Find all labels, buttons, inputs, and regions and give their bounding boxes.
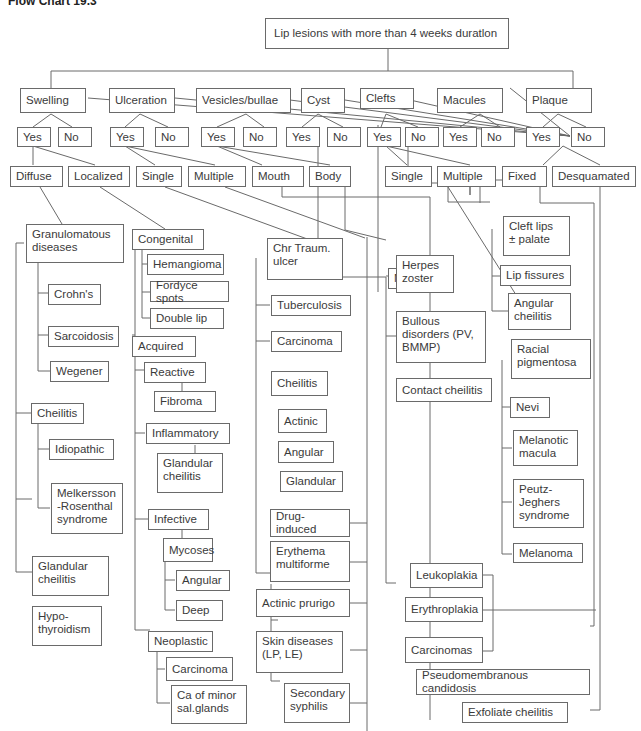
node-actinic: Actinic bbox=[278, 409, 327, 433]
node-hemangioma: Hemangioma bbox=[147, 254, 224, 275]
node-reactive: Reactive bbox=[144, 362, 206, 383]
node-clefts-yes: Yes bbox=[367, 127, 401, 147]
node-tuberculosis: Tuberculosis bbox=[271, 295, 351, 316]
node-macules: Macules bbox=[437, 88, 503, 113]
node-cyst-yes: Yes bbox=[286, 127, 320, 147]
node-swelling: Swelling bbox=[20, 88, 86, 113]
node-pseudomembranous-candidosis: Pseudomembranous candidosis bbox=[416, 669, 590, 695]
node-swelling-no: No bbox=[58, 127, 92, 147]
node-inflammatory: Inflammatory bbox=[146, 423, 230, 444]
node-peutz-jeghers: Peutz- Jeghers syndrome bbox=[513, 479, 584, 528]
node-ca-minor-salivary: Ca of minor sal.glands bbox=[171, 685, 247, 724]
node-cheilitis-ulcer: Cheilitis bbox=[271, 371, 328, 396]
node-hypothyroidism: Hypo- thyroidism bbox=[32, 606, 102, 646]
node-clefts: Clefts bbox=[360, 88, 414, 109]
node-glandular-ulcer: Glandular bbox=[280, 471, 343, 492]
node-carcinomas: Carcinomas bbox=[405, 637, 483, 663]
node-carcinoma-localized: Carcinoma bbox=[166, 657, 233, 681]
node-bullous-disorders: Bullous disorders (PV, BMMP) bbox=[396, 311, 486, 363]
node-carcinoma-ulcer: Carcinoma bbox=[271, 331, 342, 352]
node-multiple-cleft: Multiple bbox=[437, 166, 496, 187]
node-plaque: Plaque bbox=[526, 88, 592, 113]
node-plaque-no: No bbox=[571, 127, 605, 147]
node-fordyce-spots: Fordyce spots bbox=[150, 281, 229, 302]
node-multiple-ulcer: Multiple bbox=[188, 166, 246, 187]
node-fixed: Fixed bbox=[502, 166, 547, 187]
node-mouth: Mouth bbox=[252, 166, 304, 187]
node-exfoliate-cheilitis: Exfoliate cheilitis bbox=[462, 702, 568, 723]
node-granulomatous: Granulomatous diseases bbox=[26, 224, 124, 263]
node-congenital: Congenital bbox=[132, 229, 204, 250]
node-angular-mycoses: Angular bbox=[176, 570, 230, 591]
node-body: Body bbox=[309, 166, 351, 187]
node-melanoma: Melanoma bbox=[513, 543, 583, 563]
node-ulceration: Ulceration bbox=[109, 88, 175, 113]
node-cyst-no: No bbox=[327, 127, 361, 147]
node-herpes-zoster: Herpes zoster bbox=[396, 255, 454, 293]
node-angular-cheilitis-cleft: Angular cheilitis bbox=[508, 293, 571, 330]
node-vesicles-yes: Yes bbox=[201, 127, 235, 147]
node-vesicles-no: No bbox=[243, 127, 277, 147]
node-double-lip: Double lip bbox=[150, 308, 224, 329]
node-glandular-cheilitis-diffuse: Glandular cheilitis bbox=[32, 556, 109, 596]
node-macules-no: No bbox=[481, 127, 515, 147]
node-infective: Infective bbox=[148, 509, 209, 530]
node-swelling-yes: Yes bbox=[17, 127, 51, 147]
node-racial-pigmentosa: Racial pigmentosa bbox=[511, 339, 591, 379]
node-skin-diseases: Skin diseases (LP, LE) bbox=[256, 631, 343, 673]
node-contact-cheilitis: Contact cheilitis bbox=[396, 378, 492, 402]
node-wegener: Wegener bbox=[50, 361, 109, 382]
node-cleft-lips-palate: Cleft lips ± palate bbox=[503, 216, 570, 256]
node-leukoplakia: Leukoplakia bbox=[410, 563, 483, 588]
node-localized: Localized bbox=[68, 166, 130, 187]
node-vesicles-bullae: Vesicles/bullae bbox=[196, 88, 291, 113]
node-idiopathic: Idiopathic bbox=[49, 439, 114, 460]
node-cyst: Cyst bbox=[301, 88, 345, 113]
node-glandular-cheilitis-localized: Glandular cheilitis bbox=[157, 453, 223, 493]
node-desquamated: Desquamated bbox=[552, 166, 636, 187]
node-diffuse: Diffuse bbox=[10, 166, 63, 187]
node-erythroplakia: Erythroplakia bbox=[405, 597, 483, 622]
node-nevi: Nevi bbox=[510, 397, 550, 418]
node-single-cleft: Single bbox=[385, 166, 432, 187]
node-actinic-prurigo: Actinic prurigo bbox=[256, 589, 350, 617]
node-clefts-no: No bbox=[405, 127, 439, 147]
node-deep-mycoses: Deep bbox=[176, 600, 223, 621]
node-acquired: Acquired bbox=[132, 336, 196, 357]
root-node: Lip lesions with more than 4 weeks durat… bbox=[265, 18, 509, 49]
node-neoplastic: Neoplastic bbox=[148, 631, 213, 652]
node-crohns: Crohn's bbox=[48, 284, 101, 305]
node-angular-cheilitis-ulcer: Angular bbox=[278, 441, 334, 463]
node-erythema-multiforme: Erythema multiforme bbox=[270, 541, 350, 582]
node-mycoses: Mycoses bbox=[163, 538, 213, 562]
node-melanotic-macula: Melanotic macula bbox=[513, 430, 578, 466]
node-ulceration-yes: Yes bbox=[110, 127, 144, 147]
node-sarcoidosis: Sarcoidosis bbox=[48, 326, 119, 347]
node-ulceration-no: No bbox=[155, 127, 189, 147]
node-macules-yes: Yes bbox=[443, 127, 477, 147]
node-single-ulcer: Single bbox=[136, 166, 182, 187]
node-fibroma: Fibroma bbox=[154, 391, 216, 412]
node-melkersson-rosenthal: Melkersson -Rosenthal syndrome bbox=[51, 483, 123, 534]
node-lip-fissures: Lip fissures bbox=[500, 265, 571, 286]
node-secondary-syphilis: Secondary syphilis bbox=[284, 683, 350, 723]
node-drug-induced: Drug-induced bbox=[270, 509, 350, 537]
node-plaque-yes: Yes bbox=[526, 127, 560, 147]
node-cheilitis-diffuse: Cheilitis bbox=[31, 403, 84, 424]
node-chr-traum-ulcer: Chr Traum. ulcer bbox=[267, 238, 343, 280]
